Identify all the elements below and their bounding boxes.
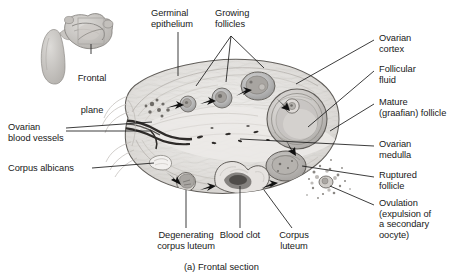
label-corpus-luteum: Corpus luteum	[271, 230, 317, 251]
growing-follicle-medium	[212, 88, 232, 108]
label-ovulation: Ovulation (expulsion of a secondary oocy…	[379, 198, 431, 240]
label-ovarian-medulla: Ovarian medulla	[379, 139, 411, 160]
growing-follicle-small	[180, 96, 196, 112]
label-ovarian-cortex: Ovarian cortex	[379, 33, 411, 54]
label-blood-clot: Blood clot	[212, 230, 268, 241]
label-follicular-fluid: Follicular fluid	[379, 64, 416, 85]
figure-caption: (a) Frontal section	[184, 262, 259, 272]
label-frontal-plane-line2: plane	[63, 105, 121, 116]
label-corpus-albicans: Corpus albicans	[8, 163, 74, 174]
ruptured-follicle	[266, 151, 306, 181]
label-ovarian-blood-vessels: Ovarian blood vessels	[8, 122, 64, 143]
corpus-luteum-structure	[215, 161, 270, 193]
label-ruptured-follicle: Ruptured follicle	[379, 170, 417, 191]
label-frontal-plane: Frontal plane	[63, 52, 121, 137]
ovary-body	[102, 55, 351, 199]
label-mature-graafian-follicle: Mature (graafian) follicle	[379, 97, 446, 118]
label-growing-follicles: Growing follicles	[215, 8, 249, 29]
label-frontal-plane-line1: Frontal	[63, 73, 121, 84]
growing-follicle-large	[241, 72, 275, 100]
label-germinal-epithelium: Germinal epithelium	[151, 8, 193, 29]
corpus-albicans-structure	[149, 155, 171, 170]
blood-clot-core	[229, 175, 247, 185]
ovary-frontal-section-figure: Frontal plane Germinal epithelium Growin…	[0, 0, 461, 279]
